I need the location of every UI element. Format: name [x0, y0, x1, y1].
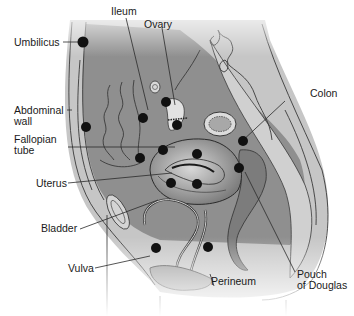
label-ileum: Ileum [111, 6, 137, 17]
label-umbilicus: Umbilicus [14, 37, 60, 48]
label-abdominal-wall-line2: wall [14, 116, 32, 127]
label-ovary: Ovary [144, 19, 172, 30]
label-uterus: Uterus [36, 178, 67, 189]
label-vulva: Vulva [68, 263, 94, 274]
label-colon: Colon [310, 88, 337, 99]
anatomy-diagram: Ileum Ovary Umbilicus Colon Abdominal wa… [0, 0, 354, 316]
label-bladder: Bladder [41, 223, 77, 234]
label-fallopian-tube-line2: tube [14, 145, 34, 156]
label-perineum: Perineum [211, 276, 256, 287]
label-pouch-of-douglas-line2: of Douglas [297, 280, 347, 291]
